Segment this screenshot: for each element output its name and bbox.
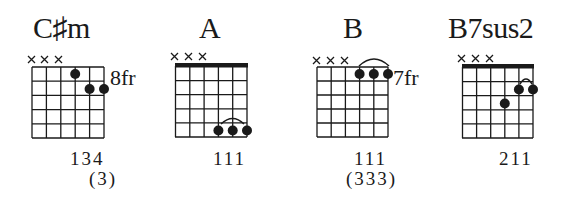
finger-dot [500,99,510,109]
chord-diagram [0,0,563,200]
nut [462,64,534,69]
finger-dot [528,85,538,95]
fretboard-grid [462,67,533,138]
fingering-label: 211 [499,149,533,168]
muted-string-icons [458,55,493,62]
chord-b7sus2: B7sus2 211 [0,0,563,200]
finger-dot [514,85,524,95]
